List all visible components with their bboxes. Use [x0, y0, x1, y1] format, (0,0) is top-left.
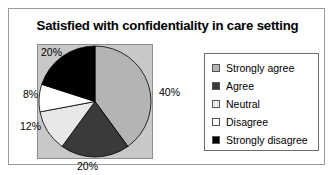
pie-plot-area: [37, 44, 153, 159]
legend-item-agree: Agree: [212, 77, 318, 95]
legend-label: Disagree: [226, 117, 268, 128]
legend-swatch-icon: [212, 136, 220, 144]
legend-label: Strongly disagree: [226, 135, 308, 146]
legend-label: Agree: [226, 81, 254, 92]
legend-swatch-icon: [212, 82, 220, 90]
chart-frame: Satisfied with confidentiality in care s…: [8, 8, 325, 165]
pie-value-label-agree: 20%: [77, 161, 98, 172]
legend-label: Neutral: [226, 99, 260, 110]
legend-swatch-icon: [212, 118, 220, 126]
chart-title: Satisfied with confidentiality in care s…: [9, 18, 326, 33]
legend-swatch-icon: [212, 64, 220, 72]
legend: Strongly agree Agree Neutral Disagree St…: [204, 53, 319, 151]
legend-label: Strongly agree: [226, 63, 294, 74]
pie-slice-group: [39, 46, 151, 157]
pie-value-label-disagree: 8%: [23, 89, 38, 100]
pie-value-label-neutral: 12%: [20, 121, 41, 132]
pie-value-label-strongly-agree: 40%: [159, 87, 180, 98]
legend-swatch-icon: [212, 100, 220, 108]
pie-value-label-strongly-disagree: 20%: [41, 47, 62, 58]
legend-item-strongly-agree: Strongly agree: [212, 59, 318, 77]
legend-item-strongly-disagree: Strongly disagree: [212, 131, 318, 149]
legend-item-neutral: Neutral: [212, 95, 318, 113]
pie-svg: [38, 45, 152, 158]
legend-item-disagree: Disagree: [212, 113, 318, 131]
pie-chart: [38, 45, 154, 160]
